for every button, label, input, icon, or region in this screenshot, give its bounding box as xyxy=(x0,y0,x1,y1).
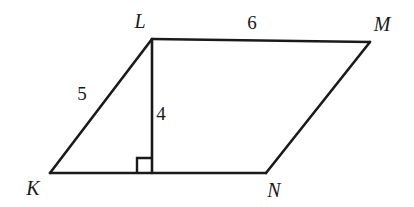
length-label-altitude: 4 xyxy=(156,104,166,123)
vertex-label-L: L xyxy=(134,11,145,31)
parallelogram-outline xyxy=(50,39,370,173)
side-KL xyxy=(50,39,152,173)
geometry-figure: K L M N 5 4 6 xyxy=(0,0,414,207)
length-label-side-KL: 5 xyxy=(77,84,87,103)
right-angle-marker xyxy=(137,158,152,173)
side-MN xyxy=(266,42,370,173)
vertex-label-K: K xyxy=(26,178,39,198)
vertex-label-N: N xyxy=(267,180,280,200)
length-label-side-LM: 6 xyxy=(247,13,257,32)
vertex-label-M: M xyxy=(374,14,391,34)
parallelogram-diagram-svg xyxy=(0,0,414,207)
side-LM xyxy=(152,39,370,42)
